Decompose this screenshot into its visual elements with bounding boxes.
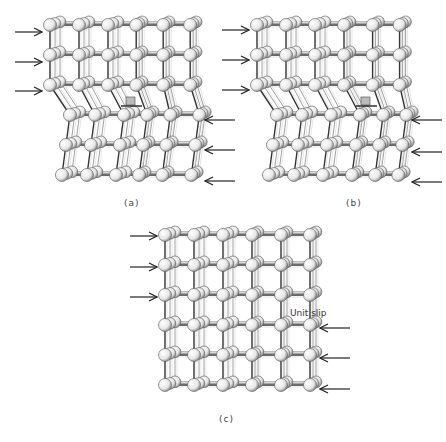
- atom: [262, 169, 275, 182]
- atom: [102, 19, 115, 32]
- atom: [159, 229, 172, 242]
- atom: [366, 49, 379, 62]
- atom: [275, 319, 288, 332]
- atom: [353, 109, 366, 122]
- atom: [159, 319, 172, 332]
- atom: [193, 109, 206, 122]
- atom: [396, 139, 409, 152]
- atom: [189, 139, 202, 152]
- atom: [291, 139, 304, 152]
- atom: [392, 169, 405, 182]
- atom: [345, 169, 358, 182]
- atom: [44, 19, 57, 32]
- atom: [157, 19, 170, 32]
- panel-a-lattice: [15, 16, 235, 182]
- atom: [251, 49, 264, 62]
- atom: [73, 19, 86, 32]
- caption-b: (b): [346, 198, 362, 208]
- atom: [280, 49, 293, 62]
- atom: [184, 79, 197, 92]
- atom: [287, 169, 300, 182]
- atom: [188, 229, 201, 242]
- atom: [109, 169, 122, 182]
- atom: [393, 19, 406, 32]
- atom: [217, 229, 230, 242]
- atom: [217, 319, 230, 332]
- atom: [188, 259, 201, 272]
- atom: [275, 229, 288, 242]
- atom: [373, 139, 386, 152]
- bonds: [257, 22, 414, 177]
- atom: [159, 289, 172, 302]
- atom: [188, 319, 201, 332]
- atom: [251, 79, 264, 92]
- caption-a: (a): [124, 198, 140, 208]
- atom: [188, 349, 201, 362]
- atom: [184, 49, 197, 62]
- atom: [133, 169, 146, 182]
- atom: [117, 109, 130, 122]
- atom: [160, 139, 173, 152]
- atom: [188, 289, 201, 302]
- atom: [304, 379, 317, 392]
- atom: [304, 229, 317, 242]
- atom: [338, 49, 351, 62]
- atom: [159, 259, 172, 272]
- atom: [251, 19, 264, 32]
- atom: [73, 79, 86, 92]
- atom: [295, 109, 308, 122]
- atom: [44, 49, 57, 62]
- atom: [188, 379, 201, 392]
- atom: [130, 79, 143, 92]
- atom: [102, 79, 115, 92]
- atom: [393, 79, 406, 92]
- atom: [184, 19, 197, 32]
- atom: [324, 109, 337, 122]
- atom: [338, 19, 351, 32]
- atom: [304, 349, 317, 362]
- atom: [304, 289, 317, 302]
- atom: [217, 379, 230, 392]
- atom: [63, 109, 76, 122]
- atom: [80, 169, 93, 182]
- atom: [246, 289, 259, 302]
- atom: [246, 229, 259, 242]
- atom: [141, 109, 154, 122]
- atom: [246, 319, 259, 332]
- atom: [164, 109, 177, 122]
- atom: [309, 19, 322, 32]
- atom: [270, 109, 283, 122]
- atom: [377, 109, 390, 122]
- atom: [400, 109, 413, 122]
- atom: [275, 289, 288, 302]
- atom: [217, 289, 230, 302]
- atom: [130, 19, 143, 32]
- atom: [185, 169, 198, 182]
- atom: [137, 139, 150, 152]
- atom: [157, 79, 170, 92]
- caption-c: (c): [219, 414, 234, 424]
- atom: [280, 19, 293, 32]
- atom: [275, 259, 288, 272]
- atom: [84, 139, 97, 152]
- atom: [113, 139, 126, 152]
- atom: [59, 139, 72, 152]
- atom: [280, 79, 293, 92]
- atom: [88, 109, 101, 122]
- atom: [44, 79, 57, 92]
- atom: [316, 169, 329, 182]
- atom: [304, 259, 317, 272]
- atom: [246, 349, 259, 362]
- atom: [320, 139, 333, 152]
- atom: [130, 49, 143, 62]
- atom: [246, 259, 259, 272]
- atom: [304, 319, 317, 332]
- atom: [275, 379, 288, 392]
- atom: [366, 19, 379, 32]
- atom: [393, 49, 406, 62]
- atom: [73, 49, 86, 62]
- atom: [217, 349, 230, 362]
- unit-slip-label: Unit slip: [290, 308, 327, 318]
- atom: [275, 349, 288, 362]
- atom: [266, 139, 279, 152]
